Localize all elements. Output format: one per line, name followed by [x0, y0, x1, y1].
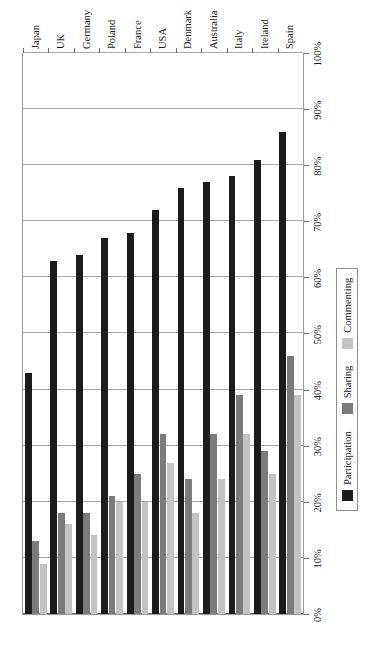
legend-item-commenting: Commenting — [342, 278, 353, 349]
bar-participation-denmark — [178, 188, 185, 614]
value-axis-tick — [304, 502, 309, 503]
value-axis-tick-label: 10% — [312, 549, 323, 568]
category-band — [74, 53, 99, 614]
category-label-usa: USA — [157, 28, 168, 49]
bar-sharing-usa — [160, 434, 167, 614]
value-axis-tick — [304, 390, 309, 391]
category-label-germany: Germany — [80, 10, 91, 49]
value-axis-tick — [304, 165, 309, 166]
category-label-france: France — [131, 20, 142, 49]
category-label-denmark: Denmark — [182, 10, 193, 49]
value-axis-tick — [304, 614, 309, 615]
bar-sharing-france — [134, 474, 141, 614]
category-band — [48, 53, 73, 614]
category-band — [227, 53, 252, 614]
bar-commenting-poland — [116, 502, 123, 614]
bar-sharing-australia — [210, 434, 217, 614]
value-axis-tick — [304, 221, 309, 222]
value-axis-tick-label: 30% — [312, 437, 323, 456]
bar-participation-japan — [25, 373, 32, 614]
plot-area — [22, 53, 304, 615]
bar-commenting-denmark — [192, 513, 199, 614]
bar-participation-australia — [203, 182, 210, 614]
category-axis-labels: SpainIrelandItalyAustraliaDenmarkUSAFran… — [22, 0, 304, 53]
category-label-spain: Spain — [284, 25, 295, 49]
category-label-ireland: Ireland — [258, 19, 269, 49]
bar-commenting-ireland — [269, 474, 276, 614]
category-band — [125, 53, 150, 614]
bar-sharing-germany — [83, 513, 90, 614]
value-axis-tick — [304, 558, 309, 559]
legend-item-participation: Participation — [342, 431, 353, 501]
value-axis-tick — [304, 334, 309, 335]
value-axis-tick-label: 90% — [312, 100, 323, 119]
bar-participation-france — [127, 233, 134, 614]
category-label-poland: Poland — [106, 20, 117, 49]
bar-sharing-uk — [58, 513, 65, 614]
category-band — [23, 53, 48, 614]
bar-commenting-france — [142, 502, 149, 614]
category-label-japan: Japan — [29, 25, 40, 49]
bar-sharing-poland — [109, 496, 116, 614]
value-axis-tick-label: 40% — [312, 381, 323, 400]
bar-sharing-ireland — [261, 451, 268, 614]
category-band — [99, 53, 124, 614]
chart-figure: 0%10%20%30%40%50%60%70%80%90%100% SpainI… — [0, 0, 387, 661]
legend-label-commenting: Commenting — [342, 278, 353, 333]
legend-swatch-commenting — [342, 338, 353, 349]
value-axis-tick-label: 100% — [312, 42, 323, 67]
bar-participation-ireland — [254, 160, 261, 614]
value-axis-tick — [304, 109, 309, 110]
value-axis-tick — [304, 446, 309, 447]
value-axis-tick — [304, 277, 309, 278]
bar-participation-spain — [279, 132, 286, 614]
legend-swatch-sharing — [342, 403, 353, 414]
bar-commenting-germany — [91, 535, 98, 614]
bar-sharing-italy — [236, 395, 243, 614]
rotated-figure-wrapper: 0%10%20%30%40%50%60%70%80%90%100% SpainI… — [0, 0, 387, 661]
bar-participation-germany — [76, 255, 83, 614]
bar-commenting-spain — [294, 395, 301, 614]
bar-participation-italy — [229, 176, 236, 614]
bar-participation-uk — [50, 261, 57, 614]
legend-item-sharing: Sharing — [342, 366, 353, 415]
bar-commenting-australia — [218, 479, 225, 614]
value-axis-tick-label: 20% — [312, 493, 323, 512]
value-axis-tick — [304, 53, 309, 54]
category-band — [201, 53, 226, 614]
bar-sharing-spain — [287, 356, 294, 614]
chart-legend: ParticipationSharingCommenting — [336, 268, 358, 511]
value-axis-tick-label: 60% — [312, 269, 323, 288]
category-band — [176, 53, 201, 614]
value-axis-tick-label: 70% — [312, 213, 323, 232]
bar-participation-usa — [152, 210, 159, 614]
legend-label-sharing: Sharing — [342, 366, 353, 399]
category-band — [278, 53, 303, 614]
category-label-australia: Australia — [207, 11, 218, 50]
bar-commenting-uk — [65, 524, 72, 614]
legend-label-participation: Participation — [342, 431, 353, 485]
category-label-uk: UK — [55, 34, 66, 49]
value-axis-tick-label: 0% — [312, 608, 323, 622]
bar-commenting-italy — [243, 434, 250, 614]
bar-sharing-denmark — [185, 479, 192, 614]
bar-participation-poland — [101, 238, 108, 614]
legend-swatch-participation — [342, 490, 353, 501]
bar-commenting-japan — [40, 564, 47, 614]
category-label-italy: Italy — [233, 30, 244, 49]
category-band — [150, 53, 175, 614]
bar-commenting-usa — [167, 463, 174, 614]
value-axis-tick-label: 50% — [312, 325, 323, 344]
value-axis-tick-label: 80% — [312, 157, 323, 176]
category-band — [252, 53, 277, 614]
bar-sharing-japan — [32, 541, 39, 614]
